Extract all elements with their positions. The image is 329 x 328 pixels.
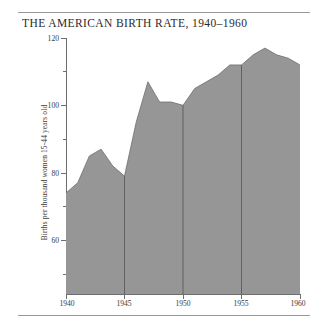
plot-area: [66, 38, 300, 294]
y-tick-label: 60: [51, 236, 59, 245]
birth-rate-area-series: [66, 38, 300, 294]
chart-title: THE AMERICAN BIRTH RATE, 1940–1960: [22, 17, 247, 29]
figure-container: THE AMERICAN BIRTH RATE, 1940–1960 Birth…: [0, 0, 329, 328]
x-tick-label-1950: 1950: [175, 299, 190, 308]
x-tick-label-1940: 1940: [59, 299, 74, 308]
x-tick-label-1955: 1955: [233, 299, 248, 308]
y-tick-label: 100: [48, 101, 59, 110]
y-tick-label: 80: [51, 169, 59, 178]
x-tick-label-1945: 1945: [116, 299, 131, 308]
bottom-divider-rule: [18, 315, 310, 316]
y-tick-label: 120: [48, 34, 59, 43]
x-tick-label-1960: 1960: [290, 299, 305, 308]
top-divider-rule: [18, 12, 310, 13]
